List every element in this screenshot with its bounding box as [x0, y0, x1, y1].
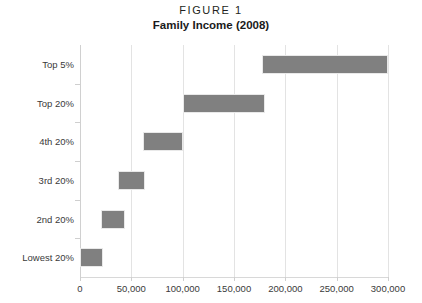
x-tick-250000	[337, 277, 338, 281]
title-block: FIGURE 1 Family Income (2008)	[0, 4, 422, 33]
x-axis-label-150000: 150,000	[217, 283, 251, 294]
bar-top-20	[183, 94, 265, 113]
x-axis-label-200000: 200,000	[268, 283, 302, 294]
figure-number-label: FIGURE 1	[0, 4, 422, 17]
x-axis-label-0: 0	[77, 283, 82, 294]
gridline-100000	[183, 45, 184, 277]
x-tick-200000	[285, 277, 286, 281]
x-tick-0	[80, 277, 81, 281]
y-axis-labels: Top 5%Top 20%4th 20%3rd 20%2nd 20%Lowest…	[0, 45, 74, 277]
x-tick-300000	[388, 277, 389, 281]
bar-3rd-20	[118, 171, 145, 190]
gridline-300000	[388, 45, 389, 277]
figure-container: FIGURE 1 Family Income (2008) Top 5%Top …	[0, 0, 422, 303]
y-axis-label-lowest-20: Lowest 20%	[2, 252, 74, 263]
plot-area	[80, 45, 388, 277]
bar-lowest-20	[80, 248, 103, 267]
figure-title: Family Income (2008)	[0, 18, 422, 33]
y-axis-label-top-5: Top 5%	[2, 59, 74, 70]
x-tick-100000	[183, 277, 184, 281]
x-tick-150000	[234, 277, 235, 281]
gridline-200000	[285, 45, 286, 277]
bar-2nd-20	[101, 210, 126, 229]
x-axis-label-100000: 100,000	[165, 283, 199, 294]
gridline-50000	[131, 45, 132, 277]
gridline-150000	[234, 45, 235, 277]
y-axis-label-3rd-20: 3rd 20%	[2, 175, 74, 186]
gridline-0	[80, 45, 81, 277]
bar-4th-20	[143, 132, 183, 151]
x-tick-50000	[131, 277, 132, 281]
y-axis-label-2nd-20: 2nd 20%	[2, 214, 74, 225]
bar-top-5	[262, 55, 388, 74]
x-axis-label-300000: 300,000	[371, 283, 405, 294]
y-axis-label-top-20: Top 20%	[2, 98, 74, 109]
gridline-250000	[337, 45, 338, 277]
x-axis-label-250000: 250,000	[319, 283, 353, 294]
y-axis-label-4th-20: 4th 20%	[2, 136, 74, 147]
x-axis-label-50000: 50,000	[117, 283, 146, 294]
